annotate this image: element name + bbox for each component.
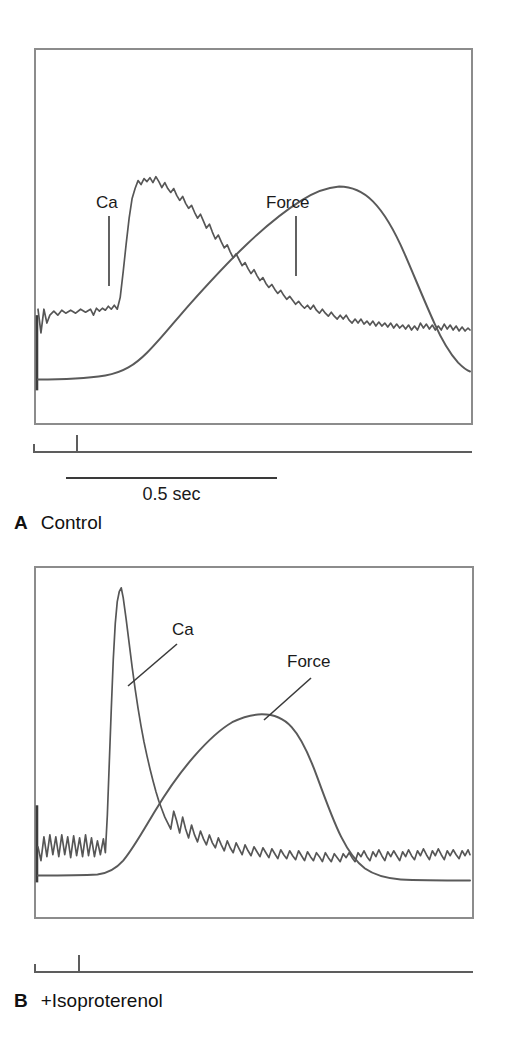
time-axis-panel-a	[0, 430, 507, 462]
force-label-panel-a: Force	[266, 194, 309, 211]
panel-a-caption-text: Control	[41, 512, 102, 533]
panel-a-traces	[36, 50, 471, 423]
ca-leader-line-a	[106, 216, 112, 288]
force-label-panel-b: Force	[287, 653, 330, 670]
force-leader-line-a	[293, 216, 299, 278]
panel-a-caption: AControl	[14, 513, 102, 532]
force-trace-a	[38, 187, 470, 380]
time-axis-panel-b	[0, 950, 507, 982]
panel-b-letter: B	[14, 990, 28, 1011]
ca-leader-line-b	[126, 642, 180, 688]
scale-bar	[66, 477, 277, 479]
panel-b-caption-text: +Isoproterenol	[41, 990, 163, 1011]
ca-label-panel-b: Ca	[172, 621, 194, 638]
figure-container: Ca Force 0.5 sec AControl Ca Force	[0, 0, 507, 1051]
panel-a-plot-frame	[34, 48, 473, 425]
panel-b-plot-frame	[34, 566, 474, 919]
calcium-trace-b	[38, 588, 470, 862]
force-leader-line-b	[262, 676, 314, 722]
scale-bar-label: 0.5 sec	[66, 484, 277, 506]
panel-b-traces	[36, 568, 472, 917]
panel-b-caption: B+Isoproterenol	[14, 991, 163, 1010]
panel-a-letter: A	[14, 512, 28, 533]
ca-label-panel-a: Ca	[96, 194, 118, 211]
